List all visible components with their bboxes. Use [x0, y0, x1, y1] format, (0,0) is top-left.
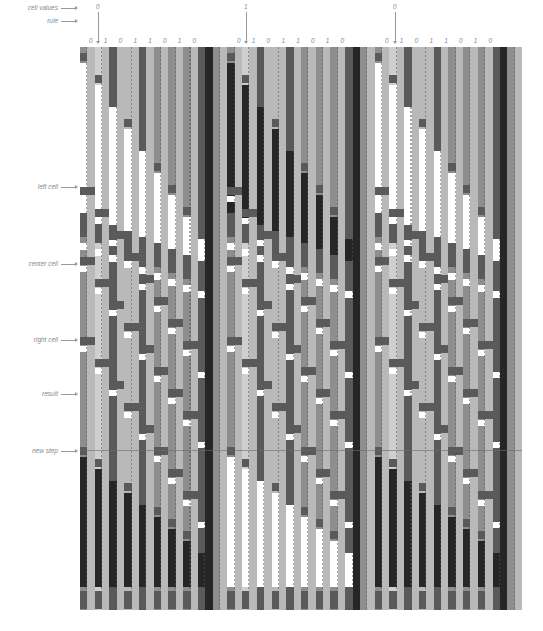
rule-digit: 1	[474, 37, 478, 44]
rule-digit: 0	[267, 37, 271, 44]
arrow-head-icon	[75, 392, 78, 396]
arrow-center-cell	[61, 264, 75, 265]
rule-digit: 0	[163, 37, 167, 44]
rule-digit: 0	[415, 37, 419, 44]
rule-digit: 1	[326, 37, 330, 44]
cell-value-2: 0	[393, 3, 397, 10]
grid-column	[515, 47, 522, 610]
rule-digit: 1	[429, 37, 433, 44]
down-arrow-icon	[98, 12, 99, 42]
rule-digit: 0	[341, 37, 345, 44]
cell-value-0: 0	[96, 3, 100, 10]
arrow-head-icon	[75, 338, 78, 342]
label-cell-values: cell values	[0, 4, 58, 11]
rule-digit: 1	[444, 37, 448, 44]
rule-digit: 0	[237, 37, 241, 44]
label-center-cell: center cell	[0, 260, 58, 267]
rule-digit: 1	[104, 37, 108, 44]
arrow-head-icon	[96, 41, 100, 44]
arrow-result	[61, 394, 75, 395]
label-result: result	[0, 390, 58, 397]
rule-digit: 0	[459, 37, 463, 44]
rule-digit: 0	[489, 37, 493, 44]
rule-digit: 0	[89, 37, 93, 44]
automaton-grid	[80, 47, 522, 610]
rule-digit: 1	[178, 37, 182, 44]
rule-digit: 0	[119, 37, 123, 44]
rule-digit: 0	[193, 37, 197, 44]
arrow-head-icon	[75, 185, 78, 189]
arrow-head-icon	[75, 6, 78, 10]
rule-digit: 1	[252, 37, 256, 44]
down-arrow-icon	[246, 12, 247, 42]
down-arrow-icon	[395, 12, 396, 42]
arrow-head-icon	[75, 262, 78, 266]
rule-digit: 1	[148, 37, 152, 44]
arrow-cell-values	[61, 8, 75, 9]
label-left-cell: left cell	[0, 183, 58, 190]
arrow-head-icon	[75, 449, 78, 453]
arrow-left-cell	[61, 187, 75, 188]
new-step-divider	[80, 450, 522, 451]
rule-digit: 0	[311, 37, 315, 44]
label-rule: rule	[0, 17, 58, 24]
arrow-head-icon	[244, 41, 248, 44]
arrow-right-cell	[61, 340, 75, 341]
rule-digit: 1	[281, 37, 285, 44]
arrow-rule	[61, 21, 75, 22]
label-new-step: new step	[0, 447, 58, 454]
arrow-new-step	[61, 451, 75, 452]
arrow-head-icon	[75, 19, 78, 23]
rule-digit: 1	[296, 37, 300, 44]
rule-digit: 0	[385, 37, 389, 44]
rule-digit: 1	[133, 37, 137, 44]
rule-digit: 1	[400, 37, 404, 44]
arrow-head-icon	[393, 41, 397, 44]
label-right-cell: right cell	[0, 336, 58, 343]
cell-value-1: 1	[244, 3, 248, 10]
